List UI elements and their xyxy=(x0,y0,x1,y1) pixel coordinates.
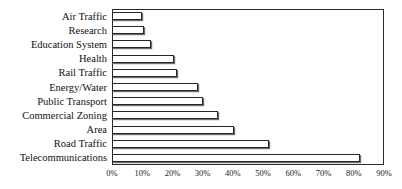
x-tick-label: 80% xyxy=(346,168,362,178)
bar-row xyxy=(112,66,384,80)
bar-row xyxy=(112,108,384,122)
bar[interactable] xyxy=(112,69,177,77)
bars-area xyxy=(112,9,384,165)
category-label: Telecommunications xyxy=(0,151,110,165)
bar-row xyxy=(112,123,384,137)
bar[interactable] xyxy=(112,140,269,148)
clipped-title-text xyxy=(6,0,366,5)
bar[interactable] xyxy=(112,154,360,162)
x-axis-tick-labels: 0%10%20%30%40%50%60%70%80%90% xyxy=(112,168,384,182)
category-label: Health xyxy=(0,52,110,66)
x-tick-label: 20% xyxy=(165,168,181,178)
category-label: Air Traffic xyxy=(0,9,110,23)
bar[interactable] xyxy=(112,126,234,134)
bar[interactable] xyxy=(112,97,203,105)
bar[interactable] xyxy=(112,111,218,119)
bar-row xyxy=(112,37,384,51)
x-tick-label: 0% xyxy=(106,168,117,178)
bar-row xyxy=(112,151,384,165)
category-label: Research xyxy=(0,23,110,37)
bar[interactable] xyxy=(112,55,174,63)
bar-row xyxy=(112,52,384,66)
bar-row xyxy=(112,137,384,151)
category-axis-labels: Air TrafficResearchEducation SystemHealt… xyxy=(0,9,110,165)
category-label: Road Traffic xyxy=(0,137,110,151)
bar[interactable] xyxy=(112,83,198,91)
x-tick-label: 90% xyxy=(376,168,392,178)
category-label: Rail Traffic xyxy=(0,66,110,80)
x-tick-label: 50% xyxy=(255,168,271,178)
category-label: Commercial Zoning xyxy=(0,108,110,122)
bar-row xyxy=(112,80,384,94)
bar-row xyxy=(112,94,384,108)
x-tick-label: 70% xyxy=(316,168,332,178)
category-label: Public Transport xyxy=(0,94,110,108)
x-tick-label: 10% xyxy=(134,168,150,178)
x-tick-label: 30% xyxy=(195,168,211,178)
bar[interactable] xyxy=(112,40,151,48)
x-tick-label: 40% xyxy=(225,168,241,178)
bar[interactable] xyxy=(112,26,144,34)
category-label: Education System xyxy=(0,37,110,51)
x-tick-label: 60% xyxy=(286,168,302,178)
category-label: Energy/Water xyxy=(0,80,110,94)
category-label: Area xyxy=(0,123,110,137)
bar-row xyxy=(112,9,384,23)
bar-row xyxy=(112,23,384,37)
bar-chart: Air TrafficResearchEducation SystemHealt… xyxy=(0,0,402,189)
bar[interactable] xyxy=(112,12,142,20)
